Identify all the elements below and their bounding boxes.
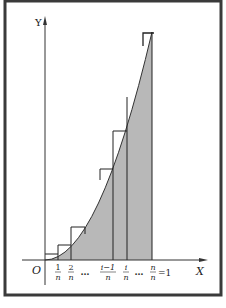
- riemann-sum-diagram: Y X O 1 n 2 n … i−1 n i n … n n =1: [0, 0, 226, 308]
- x-axis-label: X: [195, 265, 205, 278]
- svg-text:n: n: [55, 273, 60, 282]
- svg-text:n: n: [105, 273, 110, 282]
- y-axis-label: Y: [34, 17, 42, 28]
- origin-label: O: [32, 264, 41, 277]
- svg-text:n: n: [150, 263, 155, 272]
- svg-text:n: n: [150, 273, 155, 282]
- svg-text:2: 2: [68, 263, 73, 272]
- svg-text:i−1: i−1: [101, 263, 115, 272]
- svg-text:=1: =1: [158, 268, 171, 278]
- tick-ellipsis-1: …: [81, 267, 90, 277]
- tick-2-over-n: 2 n: [68, 263, 74, 282]
- svg-text:i: i: [125, 263, 128, 272]
- tick-1-over-n: 1 n: [55, 263, 61, 282]
- tick-ellipsis-2: …: [135, 267, 144, 277]
- svg-text:n: n: [68, 273, 73, 282]
- svg-text:1: 1: [55, 263, 60, 272]
- svg-text:n: n: [123, 273, 128, 282]
